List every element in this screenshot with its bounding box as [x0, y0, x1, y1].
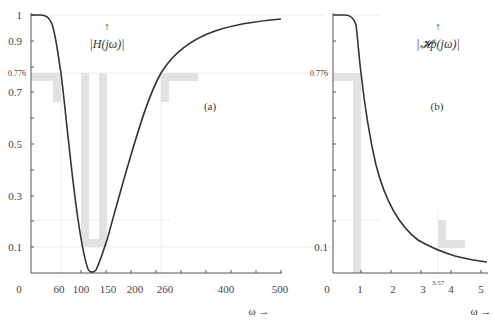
panel-b-label: (b)	[431, 100, 444, 113]
panel-b-x-tick-labels: 0 1 2 3 4 5 3.57	[324, 279, 484, 295]
x-tick: 0	[16, 283, 22, 295]
panel-b: 0.776 0.1 0 1 2 3 4 5 3.57 ↑ |𝓗p(jω)| (b…	[310, 13, 492, 317]
panel-a-x-tick-labels: 0 60 100 150 200 260 400 500	[16, 283, 289, 295]
y-tick: 0.1	[8, 241, 22, 253]
x-tick: 2	[390, 283, 396, 295]
x-tick: 400	[218, 283, 235, 295]
y-tick: 0.3	[8, 190, 22, 202]
panel-b-ylabel-arrow: ↑	[435, 20, 441, 32]
x-tick: 4	[448, 283, 454, 295]
x-tick: 3	[420, 283, 426, 295]
panel-a: 1 0.9 0.776 0.7 0.5 0.3 0.1 0 60 100 150…	[8, 9, 333, 317]
panel-a-spec-regions	[31, 73, 198, 247]
panel-a-guides	[31, 15, 333, 273]
panel-a-label: (a)	[204, 100, 217, 113]
panel-b-spec-regions	[333, 73, 465, 273]
x-tick-special: 3.57	[432, 279, 445, 287]
x-tick: 200	[127, 283, 144, 295]
panel-a-response-curve	[31, 15, 281, 272]
panel-a-ylabel: |H(jω)|	[89, 37, 124, 51]
x-tick: 150	[100, 283, 117, 295]
panel-b-guides	[333, 15, 438, 273]
y-tick: 0.5	[8, 138, 22, 150]
panel-a-y-tick-labels: 1 0.9 0.776 0.7 0.5 0.3 0.1	[8, 9, 26, 253]
y-tick: 0.776	[8, 69, 26, 78]
x-tick: 0	[324, 283, 330, 295]
x-tick: 260	[157, 283, 174, 295]
x-tick: 500	[272, 283, 289, 295]
y-tick: 0.9	[8, 35, 22, 47]
x-tick: 100	[73, 283, 90, 295]
panel-a-ylabel-arrow: ↑	[104, 20, 110, 32]
panel-a-xlabel: ω →	[249, 305, 270, 317]
panel-b-xlabel: ω →	[471, 305, 492, 317]
y-tick: 0.776	[310, 69, 328, 78]
x-tick: 5	[478, 283, 484, 295]
y-tick: 1	[17, 9, 23, 21]
filter-response-figure: 1 0.9 0.776 0.7 0.5 0.3 0.1 0 60 100 150…	[0, 0, 495, 322]
y-tick: 0.1	[314, 241, 328, 253]
x-tick: 60	[54, 283, 66, 295]
panel-b-ylabel: |𝓗p(jω)|	[416, 37, 459, 51]
x-tick: 1	[357, 283, 363, 295]
y-tick: 0.7	[8, 86, 22, 98]
panel-b-y-tick-labels: 0.776 0.1	[310, 69, 328, 253]
